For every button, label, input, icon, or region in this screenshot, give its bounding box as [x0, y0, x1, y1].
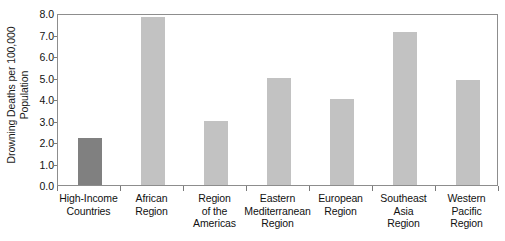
x-axis-tick-mark	[120, 186, 121, 191]
y-axis-tick-label: 7.0	[39, 30, 54, 41]
x-axis-category-labels: High-IncomeCountriesAfricanRegionRegiono…	[57, 192, 498, 241]
x-axis-tick-mark	[183, 186, 184, 191]
y-axis-tick-mark	[53, 122, 57, 123]
y-axis-tick-label: 5.0	[39, 73, 54, 84]
y-axis-tick-mark	[53, 79, 57, 80]
y-axis-tick-label: 0.0	[39, 181, 54, 192]
x-axis-category-label-line: Western	[427, 192, 505, 205]
x-axis-tick-mark	[246, 186, 247, 191]
drowning-deaths-bar-chart: Drowning Deaths per 100,000 Population 0…	[0, 0, 505, 241]
x-axis-tick-mark	[309, 186, 310, 191]
y-axis-tick-label: 3.0	[39, 116, 54, 127]
y-axis-tick-label: 2.0	[39, 138, 54, 149]
x-axis-tick-marks	[57, 186, 498, 191]
x-axis-tick-mark	[435, 186, 436, 191]
plot-area	[57, 14, 498, 186]
x-axis-category-label-line: Pacific	[427, 205, 505, 218]
y-axis-tick-mark	[53, 36, 57, 37]
bar	[204, 121, 228, 186]
bar	[456, 80, 480, 185]
bar	[141, 17, 165, 185]
y-axis-tick-label: 6.0	[39, 52, 54, 63]
x-axis-tick-mark	[372, 186, 373, 191]
x-axis-category-label: WesternPacificRegion	[427, 192, 505, 230]
bars-layer	[58, 15, 497, 185]
y-axis-tick-label: 8.0	[39, 9, 54, 20]
x-axis-category-label-line: Region	[238, 217, 317, 230]
y-axis-tick-label: 1.0	[39, 159, 54, 170]
x-axis-tick-mark	[498, 186, 499, 191]
y-axis-tick-labels: 0.01.02.03.04.05.06.07.08.0	[30, 0, 54, 192]
y-axis-title-line-2: Population	[17, 27, 30, 164]
y-axis-tick-mark	[53, 165, 57, 166]
y-axis-tick-label: 4.0	[39, 95, 54, 106]
bar	[267, 78, 291, 186]
y-axis-title: Drowning Deaths per 100,000 Population	[0, 0, 34, 190]
y-axis-tick-mark	[53, 100, 57, 101]
y-axis-tick-mark	[53, 143, 57, 144]
bar	[330, 99, 354, 185]
y-axis-title-line-1: Drowning Deaths per 100,000	[5, 27, 18, 164]
bar	[78, 138, 102, 185]
x-axis-category-label-line: Region	[427, 217, 505, 230]
bar	[393, 32, 417, 185]
y-axis-tick-mark	[53, 57, 57, 58]
x-axis-tick-mark	[57, 186, 58, 191]
